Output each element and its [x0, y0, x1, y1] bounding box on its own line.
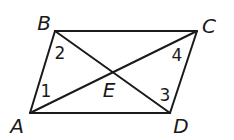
vertex-label-d: D [173, 114, 188, 138]
angle-label-3: 3 [160, 85, 171, 105]
vertex-label-e: E [103, 78, 116, 102]
parallelogram-diagram: A B C D E 1 2 3 4 [0, 0, 234, 140]
angle-label-2: 2 [55, 43, 66, 63]
vertex-label-a: A [8, 114, 24, 138]
angle-label-4: 4 [172, 45, 183, 65]
vertex-label-b: B [37, 11, 51, 35]
angle-label-1: 1 [41, 81, 52, 101]
vertex-label-c: C [202, 14, 216, 38]
